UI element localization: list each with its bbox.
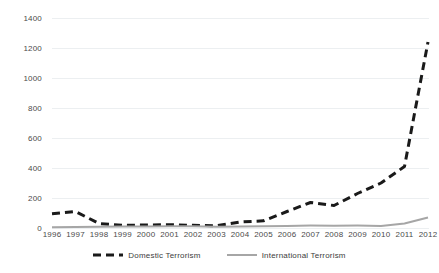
x-tick-label: 1998 bbox=[90, 230, 109, 239]
legend-item-international-terrorism[interactable]: International Terrorism bbox=[227, 250, 346, 260]
y-tick-label: 600 bbox=[28, 134, 42, 143]
x-tick-label: 1999 bbox=[113, 230, 132, 239]
series-line-domestic-terrorism bbox=[52, 42, 428, 226]
gridline bbox=[52, 228, 429, 229]
y-tick-label: 1200 bbox=[23, 44, 42, 53]
chart-legend: Domestic TerrorismInternational Terroris… bbox=[0, 250, 439, 260]
x-tick-label: 2007 bbox=[301, 230, 320, 239]
x-tick-label: 2012 bbox=[419, 230, 438, 239]
legend-item-domestic-terrorism[interactable]: Domestic Terrorism bbox=[93, 250, 200, 260]
legend-swatch-icon bbox=[93, 250, 123, 260]
y-tick-label: 1400 bbox=[23, 14, 42, 23]
x-tick-label: 2001 bbox=[160, 230, 179, 239]
x-tick-label: 1997 bbox=[66, 230, 85, 239]
legend-label: Domestic Terrorism bbox=[128, 251, 200, 260]
legend-swatch-icon bbox=[227, 250, 257, 260]
x-tick-label: 2009 bbox=[348, 230, 367, 239]
x-tick-label: 2006 bbox=[278, 230, 297, 239]
y-tick-label: 800 bbox=[28, 104, 42, 113]
x-tick-label: 2002 bbox=[184, 230, 203, 239]
x-axis: 1996199719981999200020012002200320042005… bbox=[52, 230, 429, 244]
x-tick-label: 2004 bbox=[231, 230, 250, 239]
x-tick-label: 2003 bbox=[207, 230, 226, 239]
series-line-international-terrorism bbox=[52, 218, 428, 228]
y-axis: 0200400600800100012001400 bbox=[0, 18, 48, 228]
x-tick-label: 2010 bbox=[372, 230, 391, 239]
series-container bbox=[52, 18, 429, 228]
x-tick-label: 2011 bbox=[395, 230, 413, 239]
y-tick-label: 1000 bbox=[23, 74, 42, 83]
x-tick-label: 2005 bbox=[254, 230, 273, 239]
y-tick-label: 0 bbox=[37, 224, 42, 233]
x-tick-label: 2008 bbox=[325, 230, 344, 239]
legend-label: International Terrorism bbox=[262, 251, 346, 260]
y-tick-label: 200 bbox=[28, 194, 42, 203]
y-tick-label: 400 bbox=[28, 164, 42, 173]
line-chart: 0200400600800100012001400 19961997199819… bbox=[0, 0, 439, 273]
x-tick-label: 2000 bbox=[137, 230, 156, 239]
plot-area bbox=[52, 18, 429, 228]
x-tick-label: 1996 bbox=[43, 230, 62, 239]
